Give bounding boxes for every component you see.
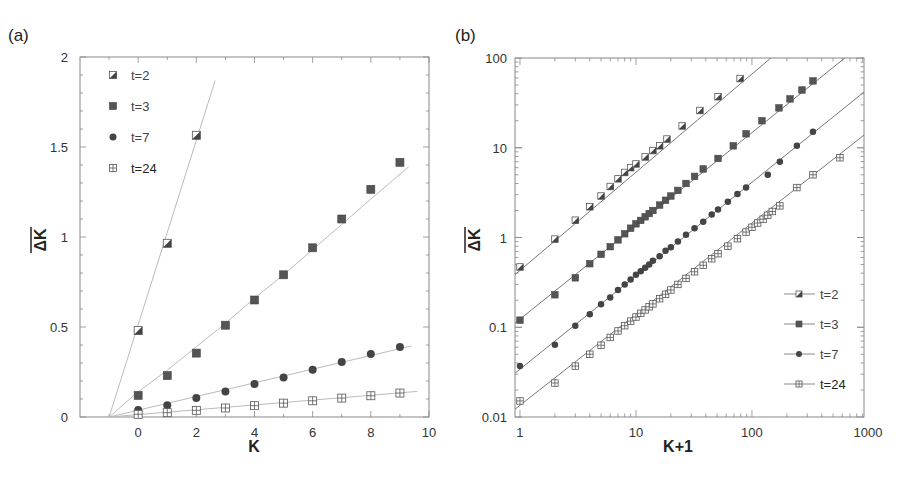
x-tick-label: 6 bbox=[309, 425, 316, 440]
data-point-t=7 bbox=[715, 206, 722, 213]
data-point-t=24 bbox=[338, 394, 346, 402]
data-point-t=2 bbox=[607, 183, 614, 190]
data-point-t=7 bbox=[251, 380, 259, 388]
data-point-t=3 bbox=[251, 296, 259, 304]
x-tick-label: 1 bbox=[516, 425, 523, 440]
data-point-t=7 bbox=[627, 276, 634, 283]
legend-label-t=7: t=7 bbox=[131, 130, 149, 145]
data-point-t=3 bbox=[787, 96, 794, 103]
data-point-t=2 bbox=[650, 147, 657, 154]
legend-marker-t=24 bbox=[796, 381, 802, 387]
data-point-t=24 bbox=[668, 287, 675, 294]
data-point-t=7 bbox=[396, 343, 404, 351]
data-point-t=3 bbox=[192, 349, 200, 357]
x-tick-label: 1000 bbox=[853, 425, 882, 440]
data-point-t=24 bbox=[734, 235, 741, 242]
x-tick-label: 10 bbox=[422, 425, 436, 440]
data-point-t=7 bbox=[691, 225, 698, 232]
panel-b-points bbox=[517, 75, 843, 404]
data-point-t=2 bbox=[642, 154, 649, 161]
y-tick-label: 0 bbox=[61, 410, 68, 425]
data-point-t=2 bbox=[715, 94, 722, 101]
svg-text:ΔK: ΔK bbox=[32, 228, 49, 252]
data-point-t=24 bbox=[615, 328, 622, 335]
panel-a-ticks: 024681000.511.52 bbox=[50, 50, 436, 440]
data-point-t=3 bbox=[691, 173, 698, 180]
data-point-t=24 bbox=[837, 154, 844, 161]
data-point-t=7 bbox=[656, 253, 663, 260]
panel-b-x-axis-label: K+1 bbox=[663, 438, 693, 455]
y-tick-label: 1 bbox=[61, 230, 68, 245]
data-point-t=7 bbox=[777, 158, 784, 165]
data-point-t=3 bbox=[675, 187, 682, 194]
panel-a-points bbox=[134, 131, 404, 418]
data-point-t=2 bbox=[679, 123, 686, 130]
data-point-t=7 bbox=[700, 218, 707, 225]
data-point-t=24 bbox=[621, 322, 628, 329]
data-point-t=24 bbox=[777, 203, 784, 210]
data-point-t=2 bbox=[163, 239, 171, 247]
y-tick-label: 1 bbox=[500, 231, 507, 246]
panel-a: (a) 024681000.511.52 t=2t=3t=7t=24 K ΔK bbox=[8, 26, 436, 455]
data-point-t=2 bbox=[517, 264, 524, 271]
data-point-t=3 bbox=[700, 166, 707, 173]
data-point-t=7 bbox=[517, 363, 524, 370]
data-point-t=7 bbox=[309, 366, 317, 374]
legend-marker-t=3 bbox=[796, 321, 802, 327]
data-point-t=7 bbox=[662, 248, 669, 255]
data-point-t=24 bbox=[810, 172, 817, 179]
legend-marker-t=3 bbox=[110, 103, 117, 110]
data-point-t=7 bbox=[621, 281, 628, 288]
data-point-t=3 bbox=[668, 193, 675, 200]
data-point-t=7 bbox=[607, 294, 614, 301]
data-point-t=24 bbox=[163, 409, 171, 417]
data-point-t=24 bbox=[715, 250, 722, 256]
svg-text:ΔK: ΔK bbox=[466, 228, 483, 252]
data-point-t=7 bbox=[552, 341, 559, 348]
legend-marker-t=24 bbox=[110, 165, 117, 172]
panel-a-x-axis-label: K bbox=[248, 438, 260, 455]
fit-line-t=7 bbox=[109, 346, 412, 417]
data-point-t=3 bbox=[280, 271, 288, 279]
data-point-t=3 bbox=[517, 317, 524, 324]
panel-b-fit-lines bbox=[515, 0, 864, 409]
x-tick-label: 100 bbox=[741, 425, 763, 440]
data-point-t=3 bbox=[367, 185, 375, 193]
x-tick-label: 0 bbox=[135, 425, 142, 440]
data-point-t=3 bbox=[621, 231, 628, 238]
y-tick-label: 0.1 bbox=[489, 320, 507, 335]
data-point-t=24 bbox=[280, 399, 288, 407]
data-point-t=3 bbox=[163, 372, 171, 380]
legend-marker-t=7 bbox=[110, 134, 117, 141]
data-point-t=24 bbox=[700, 262, 707, 269]
data-point-t=7 bbox=[765, 172, 772, 179]
data-point-t=7 bbox=[338, 358, 346, 366]
legend-label-t=3: t=3 bbox=[131, 99, 149, 114]
data-point-t=24 bbox=[691, 269, 698, 276]
data-point-t=7 bbox=[734, 191, 741, 198]
data-point-t=24 bbox=[675, 281, 682, 288]
fit-line-t=2 bbox=[515, 0, 864, 275]
data-point-t=3 bbox=[221, 321, 229, 329]
data-point-t=2 bbox=[664, 136, 671, 143]
legend-label-t=24: t=24 bbox=[820, 377, 846, 392]
data-point-t=24 bbox=[794, 184, 801, 191]
data-point-t=3 bbox=[656, 202, 663, 209]
x-tick-label: 8 bbox=[367, 425, 374, 440]
panel-b-legend: t=2t=3t=7t=24 bbox=[784, 287, 846, 392]
data-point-t=24 bbox=[134, 410, 142, 418]
data-point-t=2 bbox=[615, 176, 622, 183]
data-point-t=7 bbox=[794, 143, 801, 150]
x-tick-label: 10 bbox=[629, 425, 643, 440]
data-point-t=3 bbox=[810, 78, 817, 85]
data-point-t=7 bbox=[725, 199, 732, 206]
data-point-t=3 bbox=[715, 155, 722, 162]
data-point-t=24 bbox=[192, 406, 200, 414]
panel-a-y-axis-label: ΔK bbox=[31, 227, 49, 253]
data-point-t=2 bbox=[697, 107, 704, 114]
data-point-t=3 bbox=[338, 215, 346, 223]
data-point-t=24 bbox=[769, 208, 776, 215]
data-point-t=7 bbox=[221, 387, 229, 395]
data-point-t=24 bbox=[552, 380, 559, 387]
data-point-t=24 bbox=[650, 301, 657, 308]
